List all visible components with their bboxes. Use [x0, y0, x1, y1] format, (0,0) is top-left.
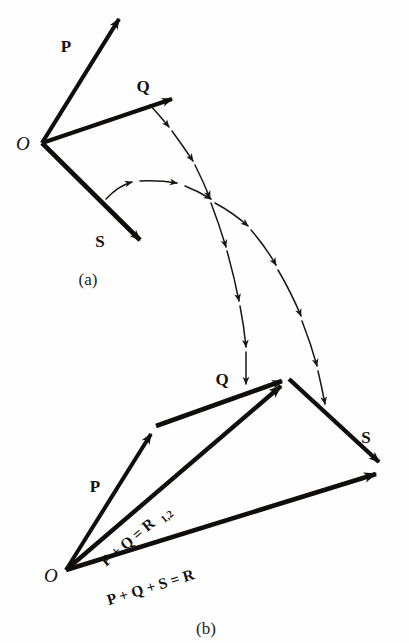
vector-r12-b-label: P + Q = R: [97, 514, 158, 569]
vector-s-a-label: S: [95, 232, 104, 251]
q-transfer-curve: [150, 105, 246, 384]
s-curve-seg-1: [106, 182, 132, 199]
vector-q-a-shaft: [42, 99, 172, 143]
vector-s-a-shaft: [42, 143, 140, 240]
panel-b: P + Q + S = R P + Q = R 1,2 P Q: [44, 370, 379, 638]
vector-q-b-label: Q: [215, 370, 228, 389]
q-curve-seg-4: [211, 203, 226, 247]
panel-a: P Q S O (a): [16, 19, 172, 289]
origin-label-a: O: [16, 133, 30, 154]
vector-r-b-label-group: P + Q + S = R: [105, 565, 197, 608]
s-curve-seg-4: [215, 203, 248, 226]
s-curve-seg-5: [251, 230, 276, 265]
vector-q-a-label: Q: [136, 77, 149, 96]
s-curve-seg-8: [318, 371, 325, 404]
q-curve-seg-3: [195, 165, 210, 198]
vector-q-b: Q: [156, 370, 282, 426]
vector-s-a: S: [42, 143, 140, 251]
vector-s-b-label: S: [361, 428, 370, 447]
vector-p-a: P: [42, 19, 119, 143]
vector-p-a-label: P: [61, 37, 71, 56]
vector-diagram-figure: P Q S O (a): [0, 0, 409, 643]
q-curve-seg-6: [240, 306, 246, 347]
s-curve-seg-6: [278, 270, 301, 316]
origin-label-b: O: [44, 565, 58, 586]
vector-r12-b-label-subscript: 1,2: [158, 508, 175, 525]
panel-b-caption: (b): [196, 619, 216, 638]
vector-r-b-label: P + Q + S = R: [105, 565, 197, 608]
vector-p-a-shaft: [42, 19, 119, 143]
q-curve-seg-1: [150, 105, 169, 127]
q-curve-seg-5: [227, 251, 239, 301]
s-curve-seg-7: [302, 321, 317, 366]
figure-canvas: P Q S O (a): [0, 0, 409, 643]
vector-p-b-label: P: [90, 477, 100, 496]
panel-a-caption: (a): [79, 270, 98, 289]
vector-s-b-shaft: [289, 379, 379, 462]
s-curve-seg-2: [140, 181, 177, 183]
vector-s-b: S: [289, 379, 379, 462]
q-curve-seg-2: [172, 131, 193, 161]
